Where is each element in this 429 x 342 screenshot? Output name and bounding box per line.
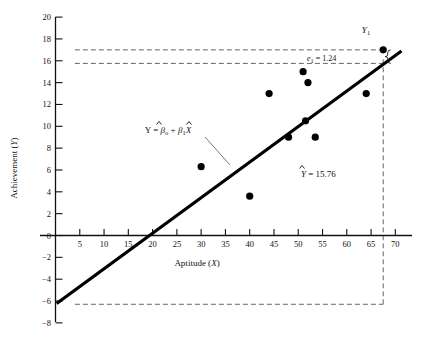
y-tick-label: 8 bbox=[47, 143, 51, 153]
data-point bbox=[302, 117, 309, 124]
regression-equation-annotation: Y = βo + β1X bbox=[145, 125, 192, 136]
y-tick-label: 10 bbox=[43, 121, 52, 131]
y-tick-label: 4 bbox=[47, 187, 52, 197]
y-tick-label: 18 bbox=[43, 34, 52, 44]
y-tick-label: 2 bbox=[47, 209, 51, 219]
y-tick-label: 14 bbox=[43, 78, 52, 88]
data-point bbox=[304, 79, 311, 86]
x-tick-label: 10 bbox=[100, 239, 109, 249]
x-tick-label: 45 bbox=[270, 239, 279, 249]
x-tick-label: 35 bbox=[221, 239, 230, 249]
x-tick-label: 55 bbox=[318, 239, 327, 249]
y-tick-label: −6 bbox=[42, 296, 51, 306]
y-axis-ticks bbox=[56, 17, 63, 323]
x-axis-tick-labels: 510152025303540455055606570 bbox=[78, 239, 400, 249]
y-axis-tick-labels: −8−6−4−202468101214161820 bbox=[42, 12, 52, 328]
x-tick-label: 70 bbox=[391, 239, 400, 249]
y-tick-label: 12 bbox=[43, 99, 52, 109]
data-point bbox=[246, 193, 253, 200]
y-tick-label: −4 bbox=[42, 274, 52, 284]
observed-point-label: Y1 bbox=[362, 25, 370, 36]
y-tick-label: 0 bbox=[47, 231, 51, 241]
data-point bbox=[266, 90, 273, 97]
y-axis-title: Achievement (Y) bbox=[9, 137, 19, 198]
data-point bbox=[363, 90, 370, 97]
predicted-value-annotation: Y = 15.76 bbox=[301, 169, 336, 179]
y-tick-label: 6 bbox=[47, 165, 51, 175]
data-point bbox=[285, 134, 292, 141]
regression-line bbox=[58, 52, 400, 303]
data-point bbox=[300, 68, 307, 75]
y-tick-label: −8 bbox=[42, 318, 51, 328]
x-tick-label: 50 bbox=[294, 239, 303, 249]
x-tick-label: 5 bbox=[78, 239, 82, 249]
y-tick-label: 20 bbox=[43, 12, 52, 22]
x-tick-label: 60 bbox=[343, 239, 352, 249]
residual-annotation: e1 = 1.24 bbox=[307, 54, 336, 64]
data-point bbox=[380, 46, 387, 53]
equation-leader-line bbox=[205, 137, 230, 165]
data-points-group bbox=[198, 46, 387, 200]
data-point bbox=[198, 163, 205, 170]
x-tick-label: 25 bbox=[173, 239, 182, 249]
x-tick-label: 65 bbox=[367, 239, 376, 249]
x-tick-label: 20 bbox=[148, 239, 157, 249]
y-tick-label: −2 bbox=[42, 252, 51, 262]
y-tick-label: 16 bbox=[43, 56, 52, 66]
x-axis-ticks bbox=[80, 229, 396, 236]
regression-scatter-chart: −8−6−4−202468101214161820 51015202530354… bbox=[0, 0, 429, 342]
x-tick-label: 30 bbox=[197, 239, 206, 249]
data-point bbox=[312, 134, 319, 141]
x-tick-label: 40 bbox=[245, 239, 254, 249]
x-axis-title: Aptitude (X) bbox=[174, 258, 219, 268]
scatter-plot-figure: −8−6−4−202468101214161820 51015202530354… bbox=[0, 0, 429, 342]
